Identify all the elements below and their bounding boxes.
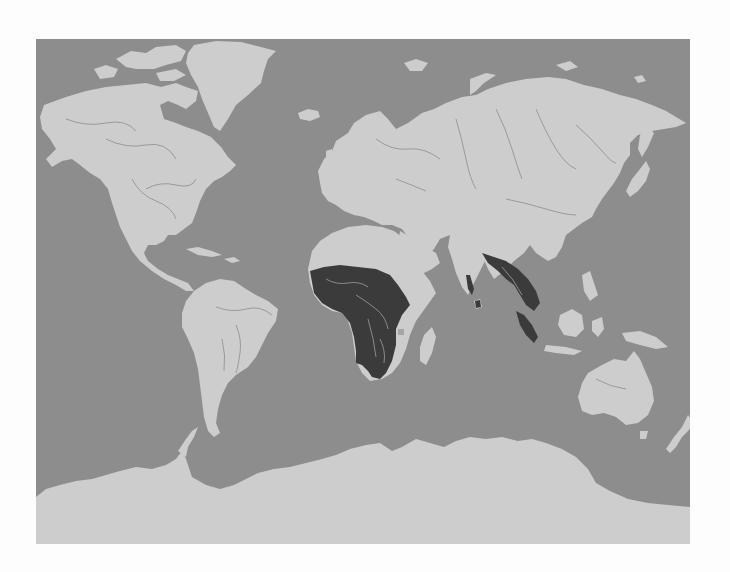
range-sri-lanka bbox=[475, 300, 481, 308]
page bbox=[0, 0, 730, 572]
world-map bbox=[36, 39, 690, 544]
lake-victoria bbox=[398, 329, 404, 335]
world-map-svg bbox=[36, 39, 690, 544]
